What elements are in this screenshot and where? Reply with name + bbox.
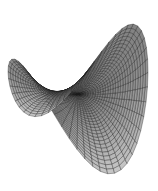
saddle-surface-plot bbox=[0, 0, 158, 191]
saddle-surface-figure bbox=[0, 0, 158, 191]
wireframe-mesh bbox=[8, 24, 148, 174]
mesh-face bbox=[90, 94, 93, 95]
